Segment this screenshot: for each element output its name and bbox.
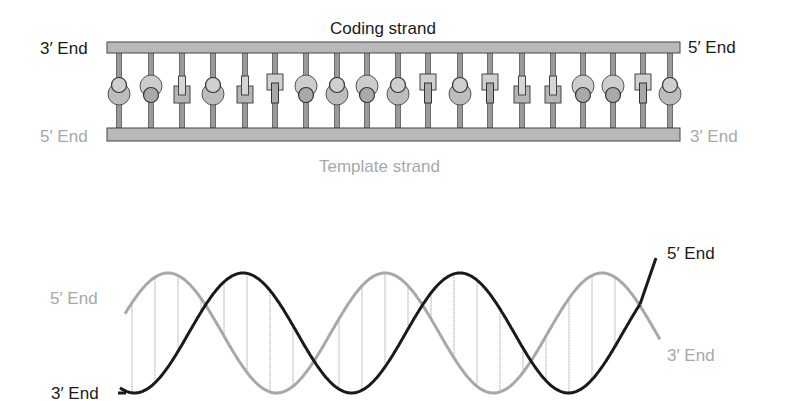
helix-graphic <box>0 0 788 401</box>
dark-strand <box>120 273 640 393</box>
light-strand <box>125 273 660 393</box>
dark-strand-end <box>640 258 656 304</box>
